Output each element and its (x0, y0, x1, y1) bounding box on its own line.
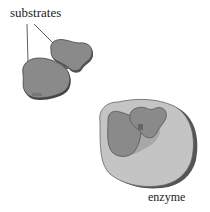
substrate-leader-line-1 (27, 24, 28, 62)
substrate-leader-line-2 (34, 24, 55, 45)
enzyme-substrate-diagram (0, 0, 210, 212)
enzyme-label: enzyme (148, 190, 185, 205)
substrates-label: substrates (10, 5, 61, 21)
